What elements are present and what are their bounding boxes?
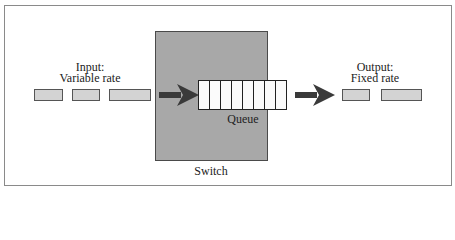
queue-cell <box>221 81 232 109</box>
switch-label: Switch <box>186 166 236 177</box>
queue <box>198 80 287 110</box>
output-packet <box>342 89 370 101</box>
input-packet <box>109 89 151 101</box>
input-packet <box>72 89 100 101</box>
input-packet <box>34 89 63 101</box>
output-arrow-icon <box>295 84 337 106</box>
queue-cell <box>210 81 221 109</box>
input-label-line2: Variable rate <box>55 73 125 84</box>
output-label: Output: Fixed rate <box>345 62 405 84</box>
queue-label: Queue <box>218 114 268 125</box>
queue-cell <box>254 81 265 109</box>
queue-cell <box>199 81 210 109</box>
queue-cell <box>243 81 254 109</box>
queue-cell <box>276 81 286 109</box>
output-packet <box>381 89 422 101</box>
queue-cell <box>232 81 243 109</box>
input-label: Input: Variable rate <box>55 62 125 84</box>
queue-cell <box>265 81 276 109</box>
output-label-line2: Fixed rate <box>345 73 405 84</box>
input-arrow-icon <box>159 84 201 106</box>
